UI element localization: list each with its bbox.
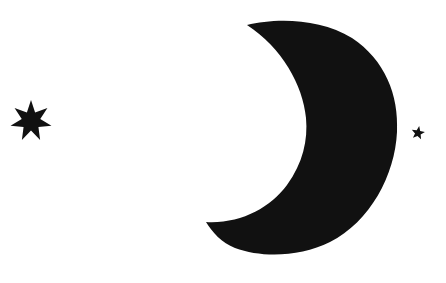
scene-canvas [0, 0, 446, 283]
